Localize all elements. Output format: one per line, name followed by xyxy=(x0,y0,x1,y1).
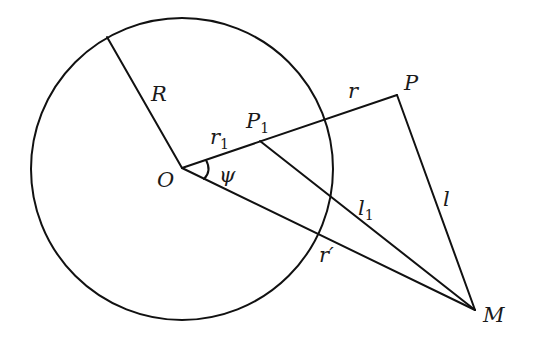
geometry-diagram: R r1 P1 r P O ψ l1 l r′ M xyxy=(0,0,541,342)
angle-arc-psi xyxy=(204,160,209,179)
label-l1: l1 xyxy=(358,196,374,223)
label-r1: r1 xyxy=(210,125,229,152)
label-r-prime: r′ xyxy=(319,243,334,267)
label-R: R xyxy=(150,82,167,106)
label-O: O xyxy=(157,168,174,192)
label-r: r xyxy=(348,79,360,103)
label-psi: ψ xyxy=(219,163,236,187)
label-P: P xyxy=(403,71,419,95)
segment-radius-R xyxy=(107,37,182,168)
label-P1: P1 xyxy=(245,109,269,136)
segment-P1-M xyxy=(260,141,475,310)
label-l: l xyxy=(443,187,450,211)
label-M: M xyxy=(482,303,505,327)
